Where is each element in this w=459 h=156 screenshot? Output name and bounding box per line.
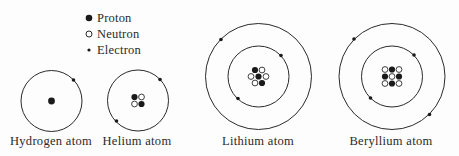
hydrogen-atom: Hydrogen atom [10, 71, 92, 149]
neutron-icon [86, 31, 92, 37]
hydrogen-label: Hydrogen atom [10, 134, 92, 148]
legend-label-neutron: Neutron [97, 27, 140, 41]
lithium-electron [279, 54, 283, 58]
electron-icon [87, 48, 90, 51]
hydrogen-electron [72, 78, 76, 82]
legend-item-neutron: Neutron [86, 27, 140, 41]
helium-atom: Helium atom [103, 70, 172, 148]
helium-electron [158, 78, 162, 82]
beryllium-atom: Beryllium atom [339, 24, 445, 149]
lithium-label: Lithium atom [222, 134, 294, 148]
beryllium-electron [369, 96, 373, 100]
helium-label: Helium atom [103, 134, 172, 148]
legend-label-proton: Proton [97, 11, 132, 25]
atom-diagram: Proton Neutron Electron Hydrogen atom He… [0, 0, 459, 156]
beryllium-label: Beryllium atom [349, 134, 432, 148]
beryllium-nucleus [382, 66, 402, 86]
legend-label-electron: Electron [97, 43, 141, 57]
legend-item-proton: Proton [86, 11, 132, 25]
lithium-electron [236, 97, 240, 101]
lithium-electron [219, 38, 223, 42]
legend-item-electron: Electron [87, 43, 141, 57]
beryllium-electron [412, 53, 416, 57]
lithium-atom: Lithium atom [206, 24, 312, 149]
hydrogen-proton [48, 98, 55, 105]
helium-electron [115, 119, 119, 123]
proton-icon [86, 15, 93, 22]
beryllium-electron [428, 113, 432, 117]
beryllium-electron [352, 37, 356, 41]
lithium-nucleus [248, 67, 269, 86]
legend: Proton Neutron Electron [86, 11, 142, 57]
helium-nucleus [131, 94, 144, 107]
